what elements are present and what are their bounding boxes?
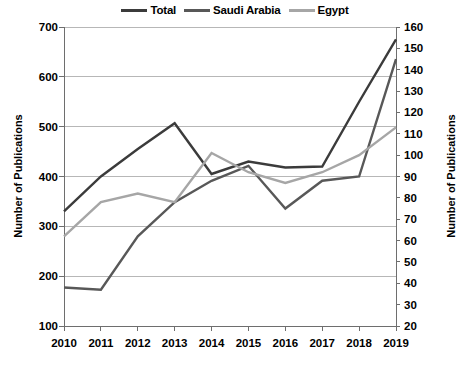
y-axis-right-tick-label: 50	[404, 256, 444, 268]
x-axis-tick-label: 2011	[88, 337, 113, 349]
y-axis-left-ticks: 100200300400500600700	[0, 27, 58, 326]
y-axis-left-tick-label: 100	[8, 320, 58, 332]
x-axis-tick-label: 2016	[273, 337, 299, 349]
x-axis-tick-label: 2014	[199, 337, 225, 349]
y-axis-right-tick-label: 20	[404, 320, 444, 332]
y-axis-left-tick-label: 200	[8, 270, 58, 282]
y-axis-right-tick-label: 140	[404, 64, 444, 76]
x-axis-tick-label: 2012	[125, 337, 151, 349]
y-axis-right-tick-label: 130	[404, 85, 444, 97]
series-line-saudi-arabia	[64, 59, 396, 290]
x-axis-tick-label: 2013	[162, 337, 188, 349]
y-axis-left-tick-label: 500	[8, 121, 58, 133]
legend-item-label: Saudi Arabia	[213, 4, 280, 16]
y-axis-right-tick-label: 160	[404, 21, 444, 33]
y-axis-right-tick-label: 80	[404, 192, 444, 204]
x-axis-tick-label: 2019	[383, 337, 409, 349]
y-axis-right-tick-label: 70	[404, 213, 444, 225]
series-line-total	[64, 39, 396, 211]
x-axis-tick-label: 2017	[309, 337, 335, 349]
y-axis-left-tick-label: 700	[8, 21, 58, 33]
y-axis-right-tick-label: 30	[404, 299, 444, 311]
y-axis-right-tick-label: 150	[404, 42, 444, 54]
legend-item-label: Egypt	[318, 4, 349, 16]
series-line-egypt	[64, 127, 396, 236]
y-axis-left-tick-label: 400	[8, 171, 58, 183]
y-axis-right-tick-label: 120	[404, 106, 444, 118]
y-axis-right-tick-label: 60	[404, 235, 444, 247]
y-axis-right-tick-label: 110	[404, 128, 444, 140]
x-axis-tick-label: 2010	[51, 337, 77, 349]
plot-area	[64, 27, 396, 326]
y-axis-right-tick-label: 40	[404, 277, 444, 289]
y-axis-right-tick-label: 90	[404, 171, 444, 183]
legend-swatch-icon	[289, 9, 315, 12]
legend-swatch-icon	[184, 9, 210, 12]
legend-item-label: Total	[150, 4, 176, 16]
x-axis-ticks: 2010201120122013201420152016201720182019	[64, 332, 396, 352]
plot-svg	[64, 27, 396, 326]
legend-item[interactable]: Egypt	[289, 4, 349, 16]
y-axis-left-tick-label: 300	[8, 220, 58, 232]
chart-legend: TotalSaudi ArabiaEgypt	[0, 4, 470, 16]
y-axis-left-tick-label: 600	[8, 71, 58, 83]
legend-swatch-icon	[121, 9, 147, 12]
y-axis-right-ticks: 2030405060708090100110120130140150160	[404, 27, 468, 326]
x-axis-tick-label: 2015	[236, 337, 262, 349]
x-axis-tick-label: 2018	[346, 337, 372, 349]
line-chart: TotalSaudi ArabiaEgypt Number of Publica…	[0, 0, 470, 381]
legend-item[interactable]: Total	[121, 4, 176, 16]
legend-item[interactable]: Saudi Arabia	[184, 4, 280, 16]
y-axis-right-tick-label: 100	[404, 149, 444, 161]
